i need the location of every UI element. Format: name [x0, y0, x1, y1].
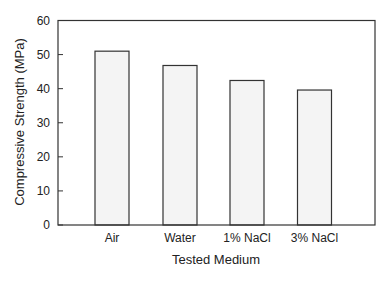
y-tick-label: 20 [37, 150, 51, 164]
y-tick-label: 10 [37, 184, 51, 198]
bar [230, 80, 264, 225]
y-tick-label: 50 [37, 48, 51, 62]
x-axis-title: Tested Medium [172, 252, 260, 267]
y-tick-label: 0 [43, 218, 50, 232]
x-tick-label: 3% NaCl [291, 231, 338, 245]
y-tick-label: 30 [37, 116, 51, 130]
y-axis-title: Compressive Strength (MPa) [12, 38, 27, 206]
y-tick-label: 60 [37, 14, 51, 28]
x-axis-tick-labels: AirWater1% NaCl3% NaCl [105, 231, 339, 245]
x-tick-label: Air [105, 231, 120, 245]
bar [95, 51, 129, 225]
bar-chart: 0102030405060 AirWater1% NaCl3% NaCl Tes… [0, 0, 388, 282]
bar [163, 65, 197, 225]
y-axis-ticks: 0102030405060 [37, 14, 63, 233]
x-tick-label: Water [164, 231, 196, 245]
bar [298, 90, 332, 225]
y-tick-label: 40 [37, 82, 51, 96]
bars [95, 51, 332, 225]
x-tick-label: 1% NaCl [223, 231, 270, 245]
